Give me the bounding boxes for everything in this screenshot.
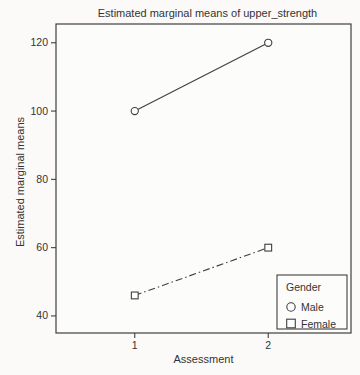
x-tick-label: 2 [265, 339, 271, 351]
male-data-marker [131, 107, 138, 114]
legend-male-label: Male [301, 301, 324, 313]
plot-svg: 40608010012012GenderMaleFemale [0, 0, 360, 375]
female-data-marker [131, 292, 138, 299]
x-tick-label: 1 [132, 339, 138, 351]
legend-title: Gender [286, 281, 322, 293]
female-data-marker [265, 244, 272, 251]
legend-male-marker [287, 303, 295, 311]
y-tick-label: 60 [36, 241, 48, 253]
estimated-marginal-means-chart: Estimated marginal means of upper_streng… [0, 0, 360, 375]
y-tick-label: 100 [30, 105, 48, 117]
y-tick-label: 80 [36, 173, 48, 185]
male-data-marker [265, 39, 272, 46]
legend-female-marker [287, 319, 296, 328]
legend-female-label: Female [301, 318, 336, 330]
y-tick-label: 120 [30, 36, 48, 48]
y-tick-label: 40 [36, 309, 48, 321]
